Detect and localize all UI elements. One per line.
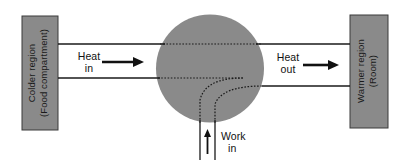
warmer-region-label-line1: Warmer region — [355, 39, 366, 103]
heat-out-arrow-icon — [303, 60, 339, 70]
heat-out-label-line1: Heat — [277, 51, 300, 63]
heat-out-label-line2: out — [281, 63, 296, 75]
colder-region-label-line1: Colder region — [26, 44, 37, 102]
heat-in-label-line1: Heat — [78, 50, 101, 62]
work-in-arrow-icon — [204, 129, 211, 154]
refrigerator-diagram: Colder region (Food compartment) Warmer … — [0, 0, 411, 166]
work-in-label-line1: Work — [221, 130, 246, 142]
heat-in-label-line2: in — [85, 62, 93, 74]
heat-in-arrow-icon — [102, 57, 144, 67]
colder-region-label-line2: (Food compartment) — [38, 29, 49, 117]
work-in-label-line2: in — [228, 142, 236, 154]
diagram-canvas: Colder region (Food compartment) Warmer … — [0, 0, 411, 166]
warmer-region-label-line2: (Room) — [367, 55, 378, 87]
heat-pump-circle — [156, 15, 264, 123]
